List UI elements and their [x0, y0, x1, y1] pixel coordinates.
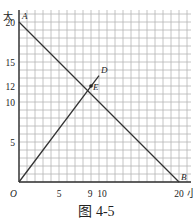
y-tick-label: 10 [6, 98, 16, 108]
x-tick-label: 20 [174, 189, 184, 199]
y-tick-label: 5 [10, 138, 15, 148]
y-tick-label: 12 [6, 82, 16, 92]
x-axis-label: 小 [187, 188, 193, 199]
origin-label: O [10, 189, 17, 199]
point-label-d: D [100, 65, 108, 75]
chart: 510121520591020O大小ABDE [0, 0, 193, 200]
y-tick-label: 15 [6, 58, 16, 68]
x-tick-label: 5 [57, 189, 62, 199]
grid [19, 10, 191, 182]
figure-caption: 图 4-5 [0, 200, 193, 220]
axes [19, 10, 191, 182]
point-label-b: B [181, 172, 187, 182]
point-label-a: A [21, 11, 28, 21]
y-axis-label: 大 [3, 10, 13, 22]
x-tick-label: 9 [88, 189, 93, 199]
x-tick-label: 10 [97, 189, 107, 199]
point-label-e: E [92, 82, 99, 92]
